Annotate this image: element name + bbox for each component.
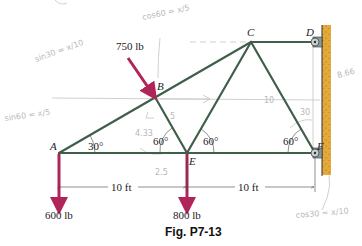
dimension-label-EF: 10 ft [238, 181, 258, 193]
node-label-D: D [305, 26, 314, 38]
handwritten-note: 30 [300, 108, 310, 117]
handwritten-note: sin30 = x/10 [34, 38, 85, 64]
load-label-E: 800 lb [173, 209, 201, 221]
handwritten-note: 5 [170, 112, 175, 121]
load-label-B: 750 lb [116, 40, 144, 52]
truss-diagram: A B C D E F 750 lb 600 lb 800 lb 30° 60°… [0, 0, 362, 246]
member-CE [187, 42, 251, 153]
angle-arcs [90, 128, 301, 153]
handwritten-note: cos30 = x/10 [295, 206, 349, 220]
angle-label-F: 60° [283, 135, 298, 147]
handwritten-note: cos60 = x/5 [142, 3, 191, 22]
node-label-B: B [157, 80, 164, 92]
angle-label-E-right: 60° [203, 135, 218, 147]
handwritten-note: 2.5 [155, 168, 168, 177]
truss-members [59, 42, 315, 153]
angle-label-A: 30° [88, 140, 103, 152]
handwritten-note: 4.33 [135, 129, 153, 138]
node-label-F: F [316, 140, 324, 152]
load-arrow-B-icon [128, 58, 152, 93]
angle-label-E-left: 60° [153, 135, 168, 147]
node-label-A: A [49, 140, 57, 152]
pencil-arrow-icon [160, 95, 210, 103]
pin-support-D [311, 37, 322, 47]
node-label-E: E [188, 155, 196, 167]
handwritten-note: 10 [264, 96, 274, 105]
load-label-A: 600 lb [45, 209, 73, 221]
figure-caption: Fig. P7-13 [165, 225, 222, 239]
wall-support [322, 25, 331, 176]
handwritten-note: sin60 = x/5 [4, 108, 51, 123]
handwritten-note: 8.66 [336, 67, 356, 80]
node-label-C: C [247, 26, 255, 38]
dimension-label-AE: 10 ft [111, 181, 131, 193]
